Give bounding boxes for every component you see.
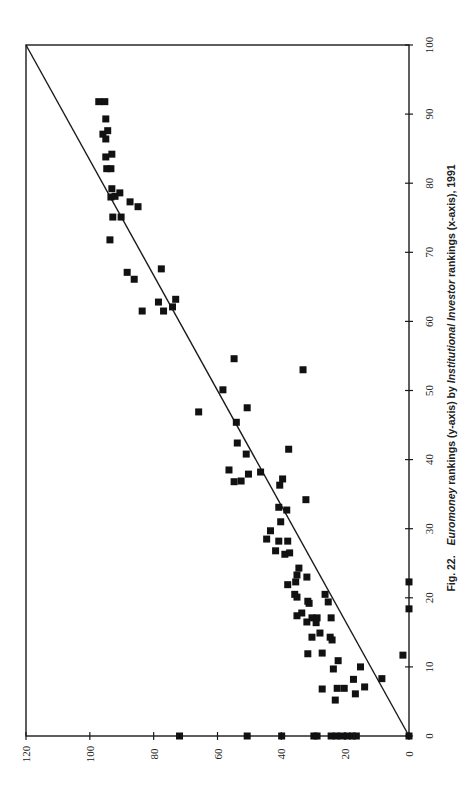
x-tick-label: 70 — [423, 246, 435, 257]
data-point — [272, 547, 279, 554]
data-point — [293, 594, 300, 601]
data-point — [116, 189, 123, 196]
data-point — [341, 685, 348, 692]
data-point — [176, 733, 183, 740]
data-point — [378, 675, 385, 682]
data-point — [107, 165, 114, 172]
x-tick-label: 20 — [423, 592, 435, 604]
data-point — [102, 135, 109, 142]
data-point — [263, 536, 270, 543]
x-tick-label: 80 — [423, 177, 435, 189]
data-point — [244, 404, 251, 411]
data-point — [292, 578, 299, 585]
data-point — [233, 419, 240, 426]
x-tick-label: 90 — [423, 108, 435, 120]
x-tick-label: 100 — [423, 36, 435, 53]
data-point — [328, 614, 335, 621]
data-point — [118, 214, 125, 221]
data-point — [124, 269, 131, 276]
data-point — [283, 507, 290, 514]
data-point — [195, 408, 202, 415]
data-point — [231, 355, 238, 362]
data-point — [308, 634, 315, 641]
data-point — [329, 636, 336, 643]
y-tick-label: 100 — [84, 745, 96, 762]
data-point — [158, 265, 165, 272]
data-point — [335, 657, 342, 664]
data-point — [306, 600, 313, 607]
data-point — [295, 565, 302, 572]
data-point — [108, 151, 115, 158]
data-point — [325, 598, 332, 605]
data-point — [399, 652, 406, 659]
data-point — [172, 296, 179, 303]
y-tick-label: 20 — [339, 748, 351, 760]
data-point — [135, 203, 142, 210]
data-point — [284, 538, 291, 545]
data-point — [313, 619, 320, 626]
data-point — [298, 610, 305, 617]
data-point — [106, 236, 113, 243]
data-point — [108, 185, 115, 192]
data-point — [95, 98, 102, 105]
data-point — [300, 366, 307, 373]
diagonal-line — [26, 45, 409, 736]
data-point — [245, 471, 252, 478]
data-point — [139, 308, 146, 315]
data-point — [238, 478, 245, 485]
data-point — [234, 440, 241, 447]
y-tick-label: 60 — [212, 748, 224, 760]
figure-caption: Fig. 22.Euromoney rankings (y-axis) by I… — [445, 164, 457, 591]
data-point — [102, 115, 109, 122]
data-point — [332, 697, 339, 704]
data-point — [243, 451, 250, 458]
data-point — [267, 527, 274, 534]
data-point — [302, 496, 309, 503]
data-point — [160, 308, 167, 315]
data-point — [286, 549, 293, 556]
x-tick-label: 50 — [423, 385, 435, 397]
caption-text-1: rankings (y-axis) by — [445, 383, 457, 487]
data-point — [314, 733, 321, 740]
data-point — [131, 276, 138, 283]
x-tick-label: 60 — [423, 315, 435, 327]
x-tick-label: 40 — [423, 454, 435, 466]
data-point — [406, 605, 413, 612]
data-point — [277, 518, 284, 525]
data-point — [231, 478, 238, 485]
reference-line — [26, 45, 409, 736]
data-point — [275, 504, 282, 511]
data-point — [406, 733, 413, 740]
x-tick-label: 30 — [423, 523, 435, 535]
data-point — [257, 469, 264, 476]
data-point — [169, 303, 176, 310]
data-point — [104, 127, 111, 134]
x-tick-label: 0 — [423, 733, 435, 739]
data-point — [101, 98, 108, 105]
data-point — [102, 153, 109, 160]
data-point — [304, 650, 311, 657]
figure-label: Fig. 22. — [445, 555, 457, 591]
y-tick-label: 40 — [275, 748, 287, 760]
data-point — [284, 581, 291, 588]
data-point — [219, 386, 226, 393]
y-tick-label: 120 — [20, 745, 32, 762]
y-tick-label: 80 — [148, 748, 160, 760]
caption-institutional-investor: Institutional Investor — [445, 280, 457, 383]
data-point — [155, 299, 162, 306]
data-point — [275, 538, 282, 545]
data-point — [330, 665, 337, 672]
data-point — [225, 466, 232, 473]
data-point — [352, 690, 359, 697]
data-point — [319, 686, 326, 693]
caption-text-2: rankings (x-axis), 1991 — [445, 164, 457, 280]
data-point — [322, 591, 329, 598]
data-point — [276, 482, 283, 489]
data-point — [303, 574, 310, 581]
data-point — [350, 676, 357, 683]
data-point — [357, 663, 364, 670]
data-point — [279, 475, 286, 482]
data-point — [319, 650, 326, 657]
data-point — [316, 630, 323, 637]
data-point — [244, 733, 251, 740]
